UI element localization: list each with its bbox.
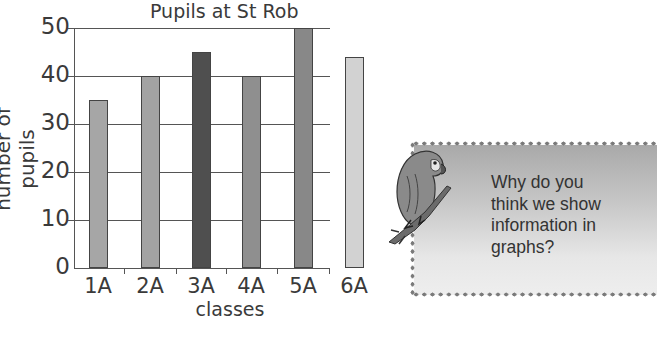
y-tick-50: 50 bbox=[38, 15, 70, 38]
chart-title: Pupils at St Rob bbox=[150, 0, 298, 22]
note-line-4: graphs? bbox=[491, 237, 651, 259]
gridline-50 bbox=[68, 28, 330, 29]
note-line-1: Why do you bbox=[491, 172, 651, 194]
bar-2a bbox=[141, 76, 160, 268]
bar-6a bbox=[345, 57, 364, 268]
y-tick-0: 0 bbox=[38, 255, 70, 278]
x-axis-label: classes bbox=[160, 298, 300, 320]
x-tick-label-3a: 3A bbox=[176, 274, 226, 298]
y-tick-10: 10 bbox=[38, 207, 70, 230]
bar-4a bbox=[242, 76, 261, 268]
note-line-3: information in bbox=[491, 215, 651, 237]
x-tick-label-2a: 2A bbox=[125, 274, 175, 298]
parrot-icon bbox=[385, 146, 465, 246]
y-axis bbox=[74, 28, 75, 269]
bar-1a bbox=[89, 100, 108, 268]
y-axis-label: number of pupils bbox=[0, 84, 39, 234]
x-tick-label-5a: 5A bbox=[278, 274, 328, 298]
dotted-border-bottom bbox=[412, 292, 657, 297]
x-tick-label-6a: 6A bbox=[329, 274, 379, 298]
y-tick-20: 20 bbox=[38, 159, 70, 182]
note-line-2: think we show bbox=[491, 194, 651, 216]
bar-5a bbox=[294, 28, 313, 268]
x-axis bbox=[74, 268, 330, 269]
y-tick-40: 40 bbox=[38, 63, 70, 86]
bar-3a bbox=[192, 52, 211, 268]
x-tick-label-1a: 1A bbox=[73, 274, 123, 298]
y-tick-30: 30 bbox=[38, 111, 70, 134]
x-tick-label-4a: 4A bbox=[226, 274, 276, 298]
note-text: Why do you think we show information in … bbox=[491, 172, 651, 258]
